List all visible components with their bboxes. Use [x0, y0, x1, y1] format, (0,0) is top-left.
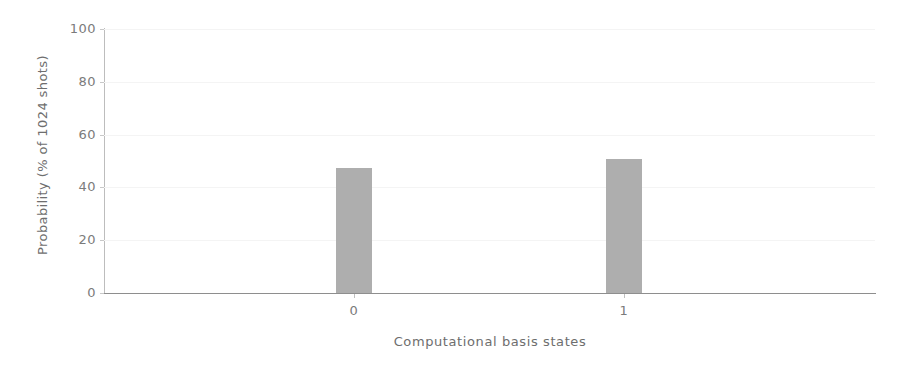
gridline-80 [104, 82, 875, 83]
y-tick-label: 40 [52, 180, 96, 194]
gridline-60 [104, 135, 875, 136]
bar-chart-figure: Probability (% of 1024 shots) 100 80 60 … [0, 0, 906, 376]
gridline-40 [104, 187, 875, 188]
y-tick-label: 20 [52, 233, 96, 247]
x-axis-label: Computational basis states [104, 334, 876, 349]
gridline-100 [104, 29, 875, 30]
y-tick-label: 0 [52, 286, 96, 300]
y-tick-label: 80 [52, 75, 96, 89]
x-tick-label: 1 [594, 303, 654, 319]
y-axis-label: Probability (% of 1024 shots) [32, 10, 54, 300]
y-tick-label: 60 [52, 128, 96, 142]
x-tick-mark [354, 294, 355, 298]
x-tick-label: 0 [324, 303, 384, 319]
gridline-20 [104, 240, 875, 241]
x-tick-mark [624, 294, 625, 298]
y-tick-label: 100 [52, 22, 96, 36]
bar-state-0[interactable] [336, 168, 372, 293]
x-axis-spine [104, 293, 876, 294]
plot-area [104, 29, 875, 293]
bar-state-1[interactable] [606, 159, 642, 293]
